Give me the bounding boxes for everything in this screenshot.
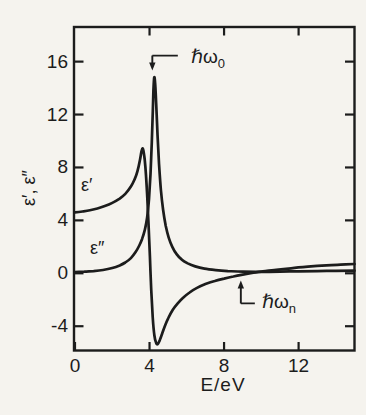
annotation-hbar-omegan: ℏωn: [262, 292, 296, 311]
epsilon-imag-curve: [75, 77, 355, 272]
y-tick-label: 4: [26, 210, 68, 229]
omegan-arrow-line: [241, 288, 255, 304]
axes-frame: [74, 27, 355, 351]
x-tick-label: 8: [202, 356, 246, 375]
annotation-omega0-subscript: 0: [218, 56, 225, 71]
annotation-omegan-text: ℏω: [262, 291, 289, 312]
y-tick-label: -4: [26, 316, 68, 335]
epsilon-real-curve: [75, 148, 355, 344]
y-tick-label: 16: [26, 52, 68, 71]
y-tick-label: 12: [26, 105, 68, 124]
annotation-omega0-text: ℏω: [191, 46, 218, 67]
dielectric-function-chart: ε′, ε″ ε′ ε″ ℏω0 ℏωn E/eV 1612840-404812: [0, 0, 366, 415]
omega0-arrow-line: [152, 56, 178, 65]
annotation-omegan-subscript: n: [289, 301, 296, 316]
x-axis-label: E/eV: [182, 375, 264, 394]
x-tick-label: 0: [53, 356, 97, 375]
omega0-arrowhead: [149, 63, 155, 71]
omegan-arrowhead: [238, 281, 244, 289]
y-tick-label: 8: [26, 157, 68, 176]
y-tick-label: 0: [26, 263, 68, 282]
curve-label-epsilon-imag: ε″: [90, 239, 104, 257]
x-tick-label: 12: [277, 356, 321, 375]
curve-label-epsilon-real: ε′: [81, 176, 92, 194]
annotation-hbar-omega0: ℏω0: [191, 47, 225, 66]
x-tick-label: 4: [128, 356, 172, 375]
